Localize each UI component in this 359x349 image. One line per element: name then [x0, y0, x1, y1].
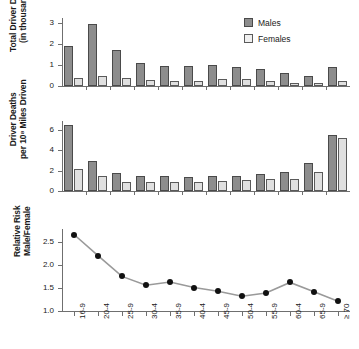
bar-males — [208, 176, 217, 192]
bar-females — [242, 79, 251, 86]
y-axis-tick-label: 1.0 — [26, 306, 54, 315]
bar-males — [280, 73, 289, 86]
x-axis-group-tick — [326, 192, 327, 195]
bar-males — [256, 174, 265, 191]
x-axis-group-tick — [86, 192, 87, 195]
x-axis-group-tick — [230, 87, 231, 90]
y-axis-tick-label: 4 — [28, 145, 54, 154]
data-point — [191, 285, 197, 291]
bar-males — [160, 176, 169, 191]
y-axis-tick — [58, 65, 62, 66]
x-axis-group-tick — [158, 87, 159, 90]
x-axis-tick-label: ≥ 70 — [342, 303, 351, 319]
plot-area-total-deaths: 0123 — [62, 18, 350, 86]
y-axis-tick — [58, 23, 62, 24]
bar-males — [304, 163, 313, 191]
x-axis-tick — [338, 312, 339, 316]
x-axis-tick-label: 55-9 — [270, 303, 279, 319]
y-axis-tick — [58, 171, 62, 172]
bar-males — [256, 69, 265, 86]
y-axis-tick-label: 2 — [28, 166, 54, 175]
bar-females — [218, 79, 227, 86]
bar-males — [112, 50, 121, 86]
y-axis-tick-label: 0 — [28, 186, 54, 195]
bar-females — [314, 83, 323, 86]
x-axis-group-tick — [134, 87, 135, 90]
data-point — [95, 253, 101, 259]
x-axis-group-tick — [158, 192, 159, 195]
x-axis-tick-label: 65-9 — [318, 303, 327, 319]
x-axis-group-tick — [302, 192, 303, 195]
x-axis-group-tick — [86, 87, 87, 90]
x-axis-tick — [170, 312, 171, 316]
bar-males — [232, 176, 241, 191]
y-axis-tick-label: 2.5 — [26, 237, 54, 246]
bar-males — [160, 66, 169, 87]
bar-females — [314, 172, 323, 191]
bar-females — [290, 179, 299, 191]
bar-females — [266, 81, 275, 86]
x-axis-tick-label: 16-9 — [78, 303, 87, 319]
bar-males — [64, 46, 73, 86]
panel-driver-death-rate: Driver Deaths per 10⁸ Miles Driven 0246 — [0, 107, 359, 215]
bar-males — [136, 63, 145, 86]
panel-relative-risk: Relative Risk Male/Female 1.01.52.02.516… — [0, 215, 359, 349]
bar-females — [146, 182, 155, 191]
data-point — [263, 290, 269, 296]
x-axis-tick — [122, 312, 123, 316]
bar-females — [170, 81, 179, 86]
bar-females — [338, 138, 347, 191]
plot-area-death-rate: 0246 — [62, 121, 350, 191]
bar-females — [122, 78, 131, 86]
bar-females — [98, 76, 107, 87]
bar-males — [328, 67, 337, 87]
y-axis-tick-label: 0 — [28, 81, 54, 90]
x-axis-tick-label: 50-4 — [246, 303, 255, 319]
legend-label-females: Females — [258, 34, 291, 44]
y-axis-tick-label: 3 — [28, 18, 54, 27]
x-axis-tick-label: 40-4 — [198, 303, 207, 319]
bar-females — [74, 169, 83, 192]
x-axis-tick — [314, 312, 315, 316]
bar-females — [146, 80, 155, 86]
legend-item-females: Females — [244, 32, 291, 45]
y-axis-tick — [58, 130, 62, 131]
x-axis-tick — [194, 312, 195, 316]
data-point — [311, 289, 317, 295]
x-axis-tick — [98, 312, 99, 316]
y-axis-tick — [58, 86, 62, 87]
y-axis-tick-label: 2 — [28, 39, 54, 48]
x-axis-group-tick — [206, 192, 207, 195]
x-axis-group-tick — [254, 192, 255, 195]
legend-swatch-males-icon — [244, 18, 253, 27]
y-axis-tick — [58, 311, 62, 312]
driver-deaths-figure: Total Driver Deaths (in thousands) 0123 … — [0, 0, 359, 349]
x-axis-group-tick — [182, 87, 183, 90]
bar-males — [208, 65, 217, 86]
x-axis-tick — [242, 312, 243, 316]
x-axis-tick-label: 25-9 — [126, 303, 135, 319]
bar-females — [194, 81, 203, 86]
bar-females — [122, 182, 131, 191]
x-axis-tick — [266, 312, 267, 316]
y-axis-tick-label: 1.5 — [26, 283, 54, 292]
y-axis-label-relative-risk: Relative Risk Male/Female — [12, 205, 32, 257]
y-axis-tick-label: 1 — [28, 60, 54, 69]
bar-males — [184, 66, 193, 87]
y-axis-label-total-deaths: Total Driver Deaths (in thousands) — [8, 0, 28, 52]
x-axis-group-tick — [278, 192, 279, 195]
bar-males — [88, 24, 97, 86]
x-axis-tick — [146, 312, 147, 316]
bar-males — [184, 177, 193, 191]
x-axis-group-tick — [254, 87, 255, 90]
y-axis-tick — [58, 44, 62, 45]
bar-females — [98, 176, 107, 191]
bar-males — [328, 135, 337, 191]
x-axis-group-tick — [206, 87, 207, 90]
data-point — [71, 232, 77, 238]
x-axis-group-tick — [110, 192, 111, 195]
y-axis-tick-label: 6 — [28, 125, 54, 134]
x-axis-tick-label: 45-9 — [222, 303, 231, 319]
x-axis-group-tick — [302, 87, 303, 90]
x-axis-group-tick — [230, 192, 231, 195]
